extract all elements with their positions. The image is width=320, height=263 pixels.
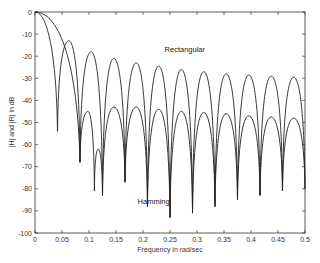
y-tick-label: -80 [22, 185, 32, 192]
curves: RectangularHamming [35, 12, 305, 218]
x-tick-label: 0.05 [55, 236, 69, 243]
annotation-rectangular: Rectangular [165, 45, 206, 54]
y-tick-label: -10 [22, 31, 32, 38]
x-tick-label: 0.45 [271, 236, 285, 243]
y-tick-label: -100 [18, 230, 32, 237]
y-tick-label: 0 [28, 9, 32, 16]
y-axis-label: |H| and |R| in dB [8, 96, 16, 147]
y-tick-label: -50 [22, 119, 32, 126]
annotation-hamming: Hamming [138, 197, 170, 206]
y-tick-label: -60 [22, 141, 32, 148]
x-tick-label: 0.2 [138, 236, 148, 243]
x-tick-label: 0.3 [192, 236, 202, 243]
x-tick-label: 0.1 [84, 236, 94, 243]
x-axis-label: Frequency in rad/sec [137, 246, 203, 254]
x-tick-label: 0.15 [109, 236, 123, 243]
x-tick-label: 0.35 [217, 236, 231, 243]
x-tick-label: 0.4 [246, 236, 256, 243]
y-tick-label: -90 [22, 207, 32, 214]
y-tick-label: -20 [22, 53, 32, 60]
series-rectangular [35, 12, 305, 218]
y-tick-label: -70 [22, 163, 32, 170]
y-tick-label: -40 [22, 97, 32, 104]
frequency-response-chart: 00.050.10.150.20.250.30.350.40.450.50-10… [0, 0, 320, 263]
y-tick-label: -30 [22, 75, 32, 82]
x-tick-label: 0.25 [163, 236, 177, 243]
x-tick-label: 0.5 [300, 236, 310, 243]
x-tick-label: 0 [33, 236, 37, 243]
